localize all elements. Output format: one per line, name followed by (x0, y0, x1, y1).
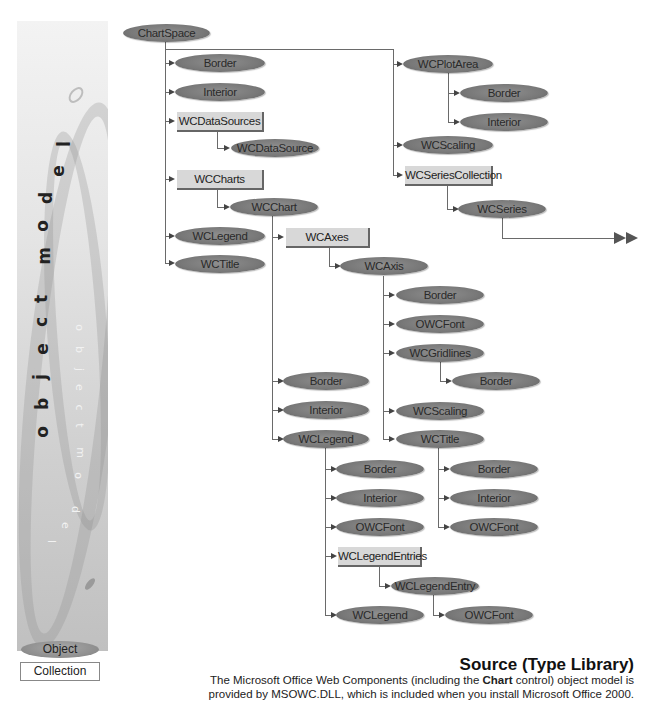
node-wcseriescollection[interactable]: WCSeriesCollection (405, 166, 493, 186)
node-wcchart[interactable]: WCChart (230, 198, 318, 216)
node-chart-wclegend[interactable]: WCLegend (283, 430, 369, 448)
node-axis-owcfont[interactable]: OWCFont (396, 315, 484, 333)
node-legend-owcfont[interactable]: OWCFont (336, 518, 424, 536)
node-axis-wctitle[interactable]: WCTitle (396, 430, 484, 448)
sidebar-decoration: l e d o m t c e j b o o b j e c t m o d … (17, 21, 108, 651)
node-axis-border[interactable]: Border (396, 286, 484, 304)
continuation-arrow-icon (626, 232, 638, 244)
node-chart-border[interactable]: Border (283, 372, 369, 390)
node-wcaxis[interactable]: WCAxis (340, 257, 428, 275)
node-wcseries[interactable]: WCSeries (458, 200, 546, 218)
sidebar-vertical-title-light: o b j e c t m o d e l (17, 21, 108, 651)
node-plotarea-interior[interactable]: Interior (460, 113, 548, 131)
node-title-owcfont[interactable]: OWCFont (450, 518, 538, 536)
source-title: Source (Type Library) (460, 655, 634, 675)
node-legendentry-owcfont[interactable]: OWCFont (445, 606, 533, 624)
node-chartspace[interactable]: ChartSpace (123, 24, 210, 42)
node-legend-wclegend[interactable]: WCLegend (336, 606, 424, 624)
description-text: The Microsoft Office Web Components (inc… (210, 674, 483, 686)
node-wclegendentry[interactable]: WCLegendEntry (391, 577, 479, 595)
node-wcplotarea[interactable]: WCPlotArea (403, 55, 493, 73)
node-wclegendentries[interactable]: WCLegendEntries (338, 547, 422, 567)
node-title-border[interactable]: Border (450, 460, 538, 478)
continuation-arrow-icon (614, 232, 626, 244)
node-axis-wcscaling[interactable]: WCScaling (396, 402, 484, 420)
node-plotarea-border[interactable]: Border (460, 84, 548, 102)
legend-collection-swatch: Collection (20, 662, 100, 681)
node-wcaxes[interactable]: WCAxes (286, 228, 370, 248)
node-wcgridlines[interactable]: WCGridlines (396, 344, 484, 362)
legend-object-swatch: Object (21, 641, 99, 658)
node-chartspace-interior[interactable]: Interior (175, 83, 265, 101)
node-chart-interior[interactable]: Interior (283, 401, 369, 419)
node-legend-interior[interactable]: Interior (336, 489, 424, 507)
node-chartspace-border[interactable]: Border (175, 54, 265, 72)
node-wccharts[interactable]: WCCharts (177, 170, 264, 190)
description-bold-chart: Chart (483, 674, 513, 686)
node-wcdatasource[interactable]: WCDataSource (231, 139, 319, 157)
node-legend-border[interactable]: Border (336, 460, 424, 478)
node-chartspace-wclegend[interactable]: WCLegend (175, 227, 265, 245)
node-title-interior[interactable]: Interior (450, 489, 538, 507)
node-gridlines-border[interactable]: Border (452, 372, 540, 390)
source-description: The Microsoft Office Web Components (inc… (164, 673, 634, 701)
node-wcdatasources[interactable]: WCDataSources (177, 112, 264, 132)
node-chartspace-wctitle[interactable]: WCTitle (175, 255, 265, 273)
node-chartspace-wcscaling[interactable]: WCScaling (403, 136, 493, 154)
